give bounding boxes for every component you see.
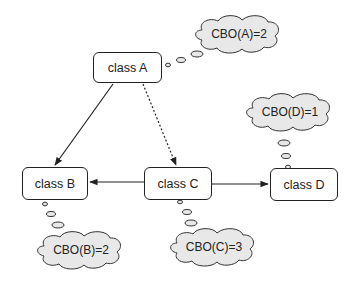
class-a-box: class A — [93, 52, 162, 83]
class-c-box: class C — [144, 167, 212, 200]
cbo-c-label: CBO(C)=3 — [175, 239, 253, 255]
class-d-label: class D — [284, 178, 325, 192]
class-d-box: class D — [270, 168, 338, 201]
class-b-label: class B — [35, 177, 75, 191]
thought-cloud-c — [171, 200, 254, 266]
thought-cloud-b — [38, 202, 121, 269]
class-c-label: class C — [158, 177, 199, 191]
cbo-d-label: CBO(D)=1 — [251, 104, 329, 120]
cbo-a-label: CBO(A)=2 — [200, 26, 278, 42]
edge-a-to-c-dashed — [143, 84, 176, 165]
class-b-box: class B — [22, 167, 88, 200]
edge-a-to-b — [55, 84, 113, 165]
cbo-b-label: CBO(B)=2 — [42, 242, 120, 258]
class-a-label: class A — [108, 61, 148, 75]
